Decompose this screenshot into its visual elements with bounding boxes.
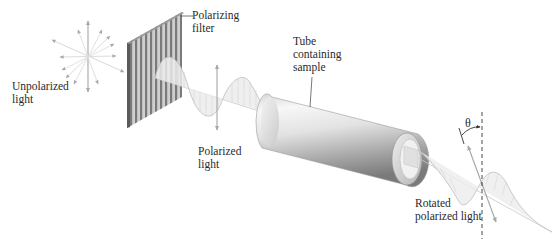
label-polarized-light: Polarized light xyxy=(198,145,241,171)
label-tube-containing-sample: Tube containing sample xyxy=(293,35,342,74)
label-rotated-polarized-light: Rotated polarized light xyxy=(415,197,482,223)
sample-tube xyxy=(256,94,429,187)
angle-tick xyxy=(459,128,464,144)
polarimeter-diagram: Unpolarized light Polarizing filter Pola… xyxy=(0,0,556,239)
label-unpolarized-light: Unpolarized light xyxy=(12,80,69,106)
label-polarizing-filter: Polarizing filter xyxy=(192,9,239,35)
tube-leader-line xyxy=(310,77,312,107)
label-theta-angle: θ xyxy=(465,117,471,130)
